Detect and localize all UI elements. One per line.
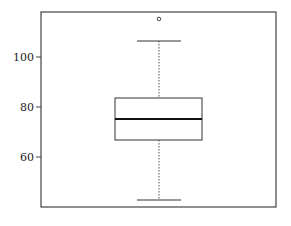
y-tick-label: 60 xyxy=(20,151,34,164)
boxplot-chart: 6080100 xyxy=(0,0,291,226)
y-tick-label: 100 xyxy=(13,51,34,64)
y-tick-label: 80 xyxy=(20,101,34,114)
outlier-point xyxy=(157,17,161,21)
